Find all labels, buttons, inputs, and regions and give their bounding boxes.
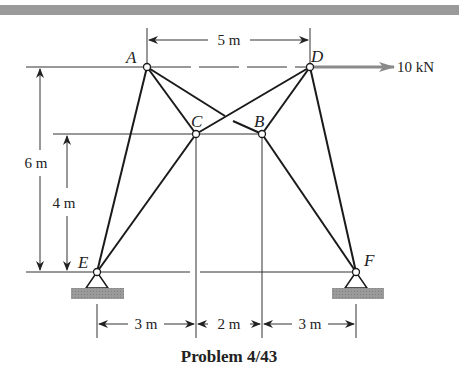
node-label-B: B [254, 112, 265, 131]
figure-title: Problem 4/43 [181, 347, 277, 366]
member-AC [147, 67, 196, 134]
node-label-E: E [77, 253, 89, 272]
member-DC [196, 67, 310, 134]
joint-E [94, 269, 101, 276]
joint-F [353, 269, 360, 276]
dimension-bottom: 3 m 2 m 3 m [99, 316, 354, 332]
truss-diagram: 5 m 6 m 4 m 3 m 2 m 3 m [0, 0, 459, 372]
dimension-label-bottom-2: 2 m [218, 316, 241, 332]
member-DF [310, 67, 356, 272]
node-label-A: A [125, 48, 137, 67]
node-label-D: D [310, 47, 324, 66]
member-BF [262, 134, 356, 272]
load-arrow: 10 kN [313, 59, 434, 75]
dimension-label-bottom-3: 3 m [299, 316, 322, 332]
member-AE [97, 67, 147, 272]
joints [94, 64, 360, 276]
member-CE [97, 134, 196, 272]
member-DB [262, 67, 310, 134]
node-label-C: C [191, 112, 203, 131]
truss-members [97, 67, 356, 272]
dimension-label-6m: 6 m [25, 155, 48, 171]
dimension-label-top: 5 m [218, 32, 241, 48]
support-F [332, 272, 384, 299]
dimension-top: 5 m [149, 32, 308, 48]
dimension-label-4m: 4 m [53, 195, 76, 211]
joint-A [144, 64, 151, 71]
node-label-F: F [363, 251, 375, 270]
joint-C [193, 131, 200, 138]
joint-B [259, 131, 266, 138]
dimension-left-inner: 4 m [53, 136, 76, 270]
load-label: 10 kN [397, 59, 434, 75]
dimension-left-outer: 6 m [25, 69, 48, 270]
dimension-label-bottom-1: 3 m [135, 316, 158, 332]
member-AB-upper [147, 67, 225, 116]
